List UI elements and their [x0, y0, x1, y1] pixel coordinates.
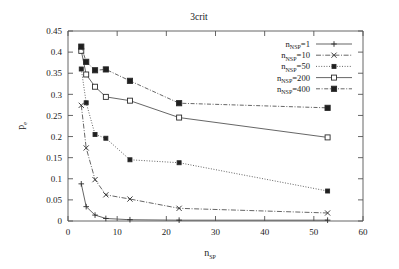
x-tick-label: 60: [359, 227, 369, 237]
y-tick-label: 0.2: [51, 132, 62, 142]
y-tick-label: 0.3: [51, 90, 63, 100]
data-point: [325, 135, 330, 140]
y-tick-label: 0.1: [51, 174, 62, 184]
data-point: [79, 67, 83, 71]
data-point: [104, 136, 108, 140]
chart-canvas: 3crit 0102030405060 00.050.10.150.20.250…: [0, 0, 399, 269]
data-point: [92, 68, 97, 73]
x-tick-label: 40: [260, 227, 270, 237]
x-tick-label: 0: [66, 227, 71, 237]
data-point: [79, 44, 84, 49]
data-point: [127, 98, 132, 103]
data-point: [84, 72, 89, 77]
x-tick-label: 30: [211, 227, 221, 237]
data-point: [127, 78, 132, 83]
data-point: [84, 59, 89, 64]
data-point: [326, 189, 330, 193]
data-point: [332, 64, 336, 68]
x-tick-label: 10: [113, 227, 123, 237]
y-tick-label: 0.25: [46, 111, 62, 121]
data-point: [93, 132, 97, 136]
data-point: [103, 67, 108, 72]
data-point: [325, 105, 330, 110]
chart-figure: 3crit 0102030405060 00.050.10.150.20.250…: [0, 0, 399, 269]
x-tick-label: 20: [162, 227, 172, 237]
data-point: [177, 101, 182, 106]
chart-title: 3crit: [190, 12, 208, 22]
y-tick-label: 0.05: [46, 195, 62, 205]
data-point: [103, 94, 108, 99]
x-tick-label: 50: [309, 227, 319, 237]
data-point: [177, 115, 182, 120]
y-tick-label: 0.15: [46, 153, 62, 163]
y-tick-label: 0.4: [51, 47, 63, 57]
data-point: [93, 84, 98, 89]
y-tick-label: 0.35: [46, 68, 62, 78]
data-point: [84, 101, 88, 105]
data-point: [177, 161, 181, 165]
data-point: [331, 86, 336, 91]
data-point: [332, 75, 337, 80]
y-tick-label: 0.45: [46, 26, 62, 36]
y-tick-label: 0: [58, 216, 63, 226]
data-point: [128, 158, 132, 162]
